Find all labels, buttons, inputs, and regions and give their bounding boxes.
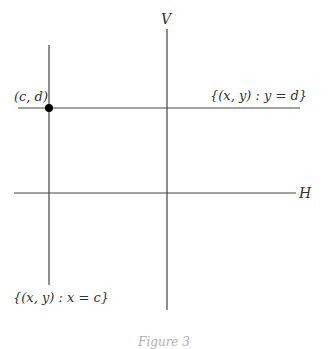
line-y-equals-d-label: {(x, y) : y = d} [210,88,307,103]
point-c-d-label: (c, d) [14,89,48,104]
line-x-equals-c-label: {(x, y) : x = c} [13,290,109,305]
figure-caption: Figure 3 [137,335,190,349]
coordinate-diagram: V H {(x, y) : y = d} {(x, y) : x = c} (c… [0,0,328,349]
point-c-d [45,104,53,112]
v-axis-label: V [161,11,173,27]
h-axis-label: H [298,185,312,201]
